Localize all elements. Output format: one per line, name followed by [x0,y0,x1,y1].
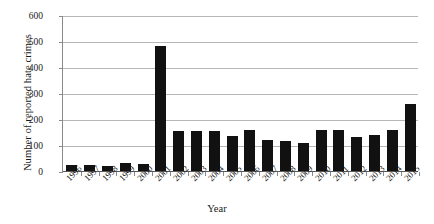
y-tick-label-600: 600 [3,11,43,21]
x-axis-title: Year [0,203,434,214]
bar-2015 [405,104,416,172]
y-tick-mark-0 [59,172,63,173]
y-tick-label-400: 400 [3,63,43,73]
plot-area: 0100200300400500600 [62,16,418,172]
y-tick-label-0: 0 [3,167,43,177]
hate-crimes-bar-chart: Number of reported hate crimes 010020030… [0,0,434,224]
bar-2001 [155,46,166,172]
bars-layer [63,16,418,172]
y-tick-label-300: 300 [3,89,43,99]
y-tick-label-200: 200 [3,115,43,125]
y-tick-label-100: 100 [3,141,43,151]
y-tick-label-500: 500 [3,37,43,47]
